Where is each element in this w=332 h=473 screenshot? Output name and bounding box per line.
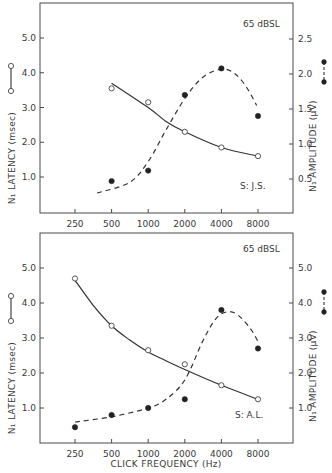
y-left-tick-label: 5.0 [22, 263, 37, 273]
amplitude-series [72, 307, 260, 430]
x-tick-label: 250 [66, 219, 83, 229]
latency-fit-curve [75, 280, 258, 399]
y-left-tick-label: 3.0 [22, 333, 37, 343]
filled-data-point [72, 425, 77, 430]
open-data-point [219, 383, 224, 388]
legend-open-circle-icon [8, 293, 13, 298]
filled-data-point [109, 412, 114, 417]
y-right-tick-label: 2.0 [298, 69, 313, 79]
x-tick-label: 2000 [173, 449, 196, 459]
filled-data-point [146, 405, 151, 410]
y-left-tick-label: 3.0 [22, 103, 37, 113]
level-annotation: 65 dBSL [243, 19, 280, 29]
legend-open-circle-icon [8, 88, 13, 93]
filled-data-point [146, 168, 151, 173]
level-annotation: 65 dBSL [243, 244, 280, 254]
y-left-tick-label: 5.0 [22, 33, 37, 43]
amplitude-legend-icon [322, 60, 327, 85]
latency-legend-icon [8, 63, 13, 93]
filled-data-point [255, 113, 260, 118]
legend-filled-circle-icon [322, 80, 327, 85]
filled-data-point [219, 307, 224, 312]
filled-data-point [109, 178, 114, 183]
chart-canvas: 25050010002000400080001.02.03.04.05.00.5… [0, 0, 332, 473]
x-tick-label: 2000 [173, 219, 196, 229]
x-tick-label: 8000 [247, 219, 270, 229]
open-data-point [72, 276, 77, 281]
open-data-point [109, 86, 114, 91]
amplitude-fit-curve [75, 312, 258, 422]
x-tick-label: 500 [103, 449, 120, 459]
open-data-point [255, 397, 260, 402]
x-tick-label: 500 [103, 219, 120, 229]
x-tick-label: 1000 [137, 449, 160, 459]
y-left-tick-label: 2.0 [22, 137, 37, 147]
y-left-tick-label: 1.0 [22, 172, 37, 182]
open-data-point [182, 129, 187, 134]
amplitude-fit-curve [97, 69, 257, 193]
latency-legend-icon [8, 293, 13, 323]
y-right-tick-label: 5.0 [298, 263, 313, 273]
y-left-axis-label: N₁ LATENCY (msec) [7, 342, 17, 434]
x-axis-label: CLICK FREQUENCY (Hz) [110, 459, 221, 469]
latency-series [72, 276, 260, 402]
top-panel: 25050010002000400080001.02.03.04.05.00.5… [7, 3, 326, 229]
x-tick-label: 8000 [247, 449, 270, 459]
filled-data-point [255, 346, 260, 351]
y-right-tick-label: 2.5 [298, 34, 312, 44]
open-data-point [255, 154, 260, 159]
filled-data-point [219, 66, 224, 71]
legend-filled-circle-icon [322, 310, 327, 315]
open-data-point [146, 100, 151, 105]
amplitude-legend-icon [322, 290, 327, 315]
y-left-tick-label: 4.0 [22, 68, 37, 78]
subject-annotation: S: J.S. [240, 181, 266, 191]
x-tick-label: 4000 [210, 449, 233, 459]
y-left-tick-label: 4.0 [22, 298, 37, 308]
open-data-point [109, 323, 114, 328]
y-left-tick-label: 2.0 [22, 368, 37, 378]
open-data-point [182, 362, 187, 367]
bottom-panel: 25050010002000400080001.02.03.04.05.01.0… [7, 233, 326, 469]
legend-open-circle-icon [8, 63, 13, 68]
open-data-point [146, 348, 151, 353]
legend-filled-circle-icon [322, 60, 327, 65]
legend-filled-circle-icon [322, 290, 327, 295]
y-right-axis-label: N₁ AMPLITUDE (µV) [308, 100, 318, 192]
y-left-axis-label: N₁ LATENCY (msec) [7, 112, 17, 204]
x-tick-label: 4000 [210, 219, 233, 229]
open-data-point [219, 145, 224, 150]
y-right-axis-label: N₁ AMPLITUDE (µV) [308, 330, 318, 422]
y-left-tick-label: 1.0 [22, 403, 37, 413]
x-tick-label: 1000 [137, 219, 160, 229]
y-right-tick-label: 4.0 [298, 298, 313, 308]
legend-open-circle-icon [8, 318, 13, 323]
filled-data-point [182, 92, 187, 97]
figure: 25050010002000400080001.02.03.04.05.00.5… [0, 0, 332, 473]
x-tick-label: 250 [66, 449, 83, 459]
subject-annotation: S: A.L. [235, 410, 263, 420]
filled-data-point [182, 397, 187, 402]
